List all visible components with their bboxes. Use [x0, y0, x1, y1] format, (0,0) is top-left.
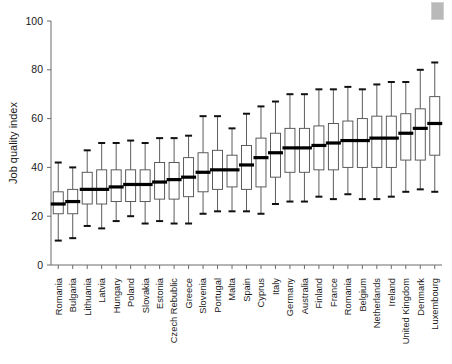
x-axis-category-label: Lithuania — [83, 277, 93, 316]
x-axis-category-label: Greece — [184, 278, 194, 309]
box-iqr — [386, 116, 396, 167]
y-axis-tick-label: 20 — [31, 210, 43, 222]
box-iqr — [343, 121, 353, 167]
box-plot-group — [138, 143, 153, 224]
box-plot-group — [210, 116, 225, 211]
x-axis-category-label: Germany — [285, 278, 295, 317]
box-plot-group — [181, 136, 196, 224]
x-axis-category-label: Czech Rebublic — [169, 278, 179, 343]
y-axis-tick-label: 60 — [31, 112, 43, 124]
box-plot-group — [297, 94, 312, 201]
y-axis-tick-label: 80 — [31, 63, 43, 75]
box-plot-group — [326, 89, 341, 199]
box-plot-group — [268, 102, 283, 204]
box-plot-group — [80, 150, 95, 226]
x-axis-category-label: Belgium — [358, 278, 368, 312]
box-plot-group — [384, 82, 399, 197]
box-plot-group — [355, 89, 370, 199]
box-iqr — [328, 123, 338, 169]
x-axis-category-label: Romania — [54, 277, 64, 315]
y-axis-tick-label: 100 — [25, 15, 43, 27]
box-plot-group — [253, 106, 268, 213]
x-axis-category-label: Cyprus — [256, 278, 266, 308]
x-axis-category-label: Portugal — [213, 278, 223, 313]
x-axis-category-label: Slovenia — [198, 277, 208, 313]
box-iqr — [242, 145, 252, 189]
box-plot-group — [152, 138, 167, 221]
x-axis-category-label: United Kingdom — [401, 278, 411, 344]
x-axis-category-label: Australia — [300, 277, 310, 314]
job-quality-index-boxplot-figure: 020406080100Job quality indexRomaniaBulg… — [0, 0, 452, 364]
x-axis-category-label: Luxembourg — [430, 278, 440, 330]
box-plot-group — [340, 87, 355, 194]
box-iqr — [256, 138, 266, 187]
x-axis-category-label: Denmark — [416, 278, 426, 316]
x-axis-category-label: France — [329, 278, 339, 307]
x-axis-category-label: Romania — [343, 277, 353, 315]
x-axis-category-label: Hungary — [112, 278, 122, 313]
box-iqr — [372, 116, 382, 167]
box-plot-group — [51, 163, 66, 241]
y-axis-tick-label: 0 — [37, 259, 43, 271]
box-iqr — [430, 97, 440, 156]
x-axis-category-label: Slovakia — [141, 277, 151, 313]
box-plot-group — [398, 82, 413, 192]
x-axis-category-label: Finland — [314, 278, 324, 309]
x-axis-category-label: Estonia — [155, 277, 165, 309]
box-plot-group — [427, 62, 442, 191]
box-iqr — [314, 126, 324, 170]
x-axis-category-label: Italy — [271, 278, 281, 295]
box-iqr — [97, 170, 107, 204]
box-iqr — [299, 128, 309, 172]
box-plot-group — [109, 143, 124, 221]
box-plot-group — [413, 70, 428, 190]
x-axis-category-label: Poland — [126, 278, 136, 307]
box-plot-group — [239, 114, 254, 212]
x-axis-category-label: Spain — [242, 278, 252, 302]
box-plot-group — [167, 138, 182, 223]
box-plot-group — [282, 94, 297, 201]
box-iqr — [357, 119, 367, 168]
box-iqr — [270, 133, 280, 177]
box-iqr — [415, 109, 425, 160]
box-iqr — [401, 114, 411, 160]
x-axis-category-label: Ireland — [387, 278, 397, 306]
box-plot-group — [94, 143, 109, 228]
box-plot-group — [196, 116, 211, 214]
box-plot-group — [65, 167, 80, 238]
x-axis-category-label: Bulgaria — [68, 277, 78, 312]
box-plot-group — [225, 128, 240, 211]
x-axis-category-label: Netherlands — [372, 278, 382, 328]
y-axis-tick-label: 40 — [31, 161, 43, 173]
box-plot-group — [123, 141, 138, 217]
x-axis-category-label: Malta — [227, 277, 237, 301]
x-axis-category-label: Latvia — [97, 277, 107, 303]
scrollbar-thumb-artifact[interactable] — [431, 2, 444, 20]
y-axis-title: Job quality index — [7, 102, 19, 184]
box-plot-group — [311, 89, 326, 196]
chart-canvas: 020406080100Job quality indexRomaniaBulg… — [0, 0, 452, 364]
box-plot-group — [369, 84, 384, 199]
box-iqr — [285, 128, 295, 172]
